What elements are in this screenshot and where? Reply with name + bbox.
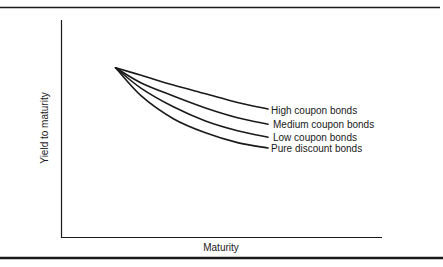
y-axis-label: Yield to maturity bbox=[39, 92, 50, 163]
series-label-medium-coupon-bonds: Medium coupon bonds bbox=[273, 119, 374, 130]
series-line-pure-discount-bonds bbox=[116, 68, 268, 148]
series-layer: High coupon bondsMedium coupon bondsLow … bbox=[116, 68, 375, 154]
series-label-pure-discount-bonds: Pure discount bonds bbox=[271, 143, 362, 154]
series-label-low-coupon-bonds: Low coupon bonds bbox=[273, 132, 357, 143]
chart: Yield to maturity Maturity High coupon b… bbox=[0, 0, 443, 267]
series-label-high-coupon-bonds: High coupon bonds bbox=[271, 105, 357, 116]
x-axis-label: Maturity bbox=[203, 242, 239, 253]
